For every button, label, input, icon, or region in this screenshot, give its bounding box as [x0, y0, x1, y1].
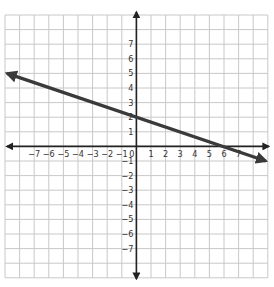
- y-tick-label: 6: [128, 54, 133, 64]
- y-tick-label: 5: [128, 68, 133, 78]
- x-axis-tick-labels: −7−6−5−4−3−2−101234567: [28, 149, 241, 159]
- x-tick-label: −2: [101, 149, 113, 159]
- y-tick-label: −2: [121, 171, 133, 181]
- x-tick-label: 5: [207, 149, 212, 159]
- coordinate-plane: −7−6−5−4−3−2−101234567 7654321−1−2−3−4−5…: [0, 0, 274, 287]
- x-tick-label: 4: [192, 149, 197, 159]
- y-tick-label: 7: [128, 39, 133, 49]
- x-tick-label: 6: [221, 149, 226, 159]
- x-tick-label: −3: [87, 149, 99, 159]
- x-tick-label: 2: [163, 149, 168, 159]
- y-tick-label: 3: [128, 98, 133, 108]
- y-tick-label: −5: [121, 214, 133, 224]
- y-tick-label: −6: [121, 229, 133, 239]
- y-tick-label: −7: [121, 244, 133, 254]
- y-tick-label: 4: [128, 83, 133, 93]
- x-tick-label: 1: [148, 149, 153, 159]
- x-tick-label: −5: [57, 149, 69, 159]
- x-tick-label: −6: [43, 149, 55, 159]
- y-tick-label: −3: [121, 185, 133, 195]
- y-tick-label: 1: [128, 127, 133, 137]
- x-tick-label: 3: [178, 149, 183, 159]
- axes: [7, 12, 269, 279]
- y-tick-label: −4: [121, 200, 133, 210]
- x-tick-label: −4: [72, 149, 84, 159]
- y-tick-label: −1: [121, 156, 133, 166]
- x-tick-label: −7: [28, 149, 40, 159]
